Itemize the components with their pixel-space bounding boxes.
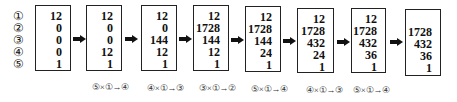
arrow-right-icon [337, 38, 350, 46]
state-box-5: 12 1728 144 24 1 [245, 6, 281, 72]
arrow-right-icon [73, 35, 86, 43]
operation-label-2: ④×①→③ [147, 83, 184, 93]
row-label-5: ⑤ [10, 58, 26, 70]
arrow-right-icon [283, 37, 296, 45]
operation-label-4: ⑤×①→④ [251, 84, 288, 94]
operation-label-5: ④×①→③ [306, 85, 343, 95]
state-box-7: 12 1728 432 36 1 [351, 8, 386, 73]
state-box-8: 1728 432 36 1 [405, 9, 441, 76]
row-labels: ① ② ③ ④ ⑤ [10, 10, 26, 70]
arrow-right-icon [125, 35, 138, 43]
arrow-right-icon [231, 36, 244, 44]
state-box-2: 12 0 0 12 1 [86, 5, 122, 71]
state-box-1: 12 0 0 0 1 [35, 5, 71, 71]
box8-value-4: 1 [408, 62, 432, 74]
box5-value-5: 1 [248, 59, 272, 71]
state-box-3: 12 0 144 12 1 [141, 5, 177, 71]
operation-label-1: ⑤×①→④ [92, 82, 129, 92]
box7-value-5: 1 [353, 61, 377, 73]
box2-value-5: 1 [101, 58, 113, 70]
operation-label-3: ③×①→② [199, 83, 236, 93]
operation-label-6: ⑤×①→④ [353, 85, 390, 95]
box3-value-5: 1 [150, 58, 168, 70]
box4-value-5: 1 [196, 58, 220, 70]
state-box-4: 12 1728 144 12 1 [193, 5, 229, 71]
arrow-right-icon [179, 35, 192, 43]
state-box-6: 12 1728 432 24 1 [297, 8, 334, 73]
arrow-right-icon [390, 38, 403, 46]
box6-value-5: 1 [301, 61, 325, 73]
box1-value-5: 1 [50, 58, 62, 70]
